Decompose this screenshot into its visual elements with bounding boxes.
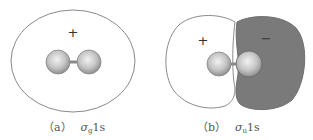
orbital-suffix: 1s bbox=[93, 121, 106, 134]
orbital-symbol: σ bbox=[81, 121, 89, 134]
panel-a-sigma-g: + bbox=[11, 10, 135, 112]
caption-panel-b: （b）σu1s bbox=[197, 118, 260, 135]
caption-panel-a: （a）σg1s bbox=[43, 118, 105, 135]
negative-phase-sign: − bbox=[261, 31, 272, 46]
panel-b-sigma-u: + − bbox=[166, 16, 305, 110]
atom-nucleus-left bbox=[46, 50, 70, 74]
positive-phase-sign: + bbox=[198, 33, 209, 48]
atom-nucleus-left bbox=[207, 52, 231, 76]
orbital-suffix: 1s bbox=[247, 121, 260, 134]
orbital-symbol: σ bbox=[235, 121, 243, 134]
atom-nucleus-right bbox=[77, 50, 101, 74]
atom-nucleus-right bbox=[236, 51, 262, 77]
panel-label: （a） bbox=[43, 121, 72, 134]
panel-label: （b） bbox=[197, 121, 226, 134]
positive-phase-sign: + bbox=[68, 25, 79, 40]
